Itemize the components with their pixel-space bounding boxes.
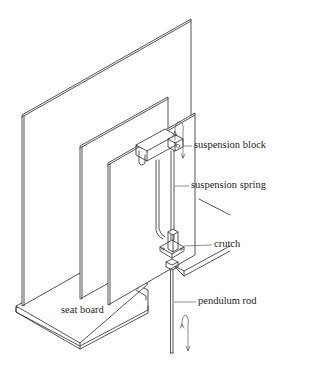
label-seat-board: seat board xyxy=(61,305,104,316)
label-crutch: crutch xyxy=(214,239,240,250)
curved-arrow-icon xyxy=(180,315,190,351)
cut-edge-line xyxy=(199,199,230,215)
label-pendulum-rod: pendulum rod xyxy=(198,296,257,307)
label-suspension-block: suspension block xyxy=(194,140,266,151)
label-suspension-spring: suspension spring xyxy=(191,180,266,191)
pendulum-rod xyxy=(171,270,174,353)
